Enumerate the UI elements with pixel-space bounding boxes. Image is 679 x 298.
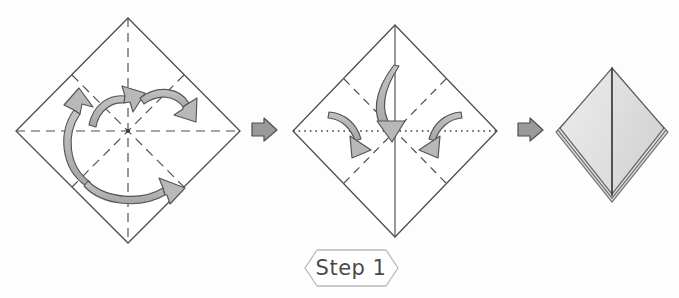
arrow-figure2-to-figure3 xyxy=(518,118,543,141)
center-point-figure-1 xyxy=(126,129,130,133)
paper-layer-front-right xyxy=(612,68,664,194)
origami-diagram-canvas: Step 1 xyxy=(0,0,679,298)
figure-3-finished-preliminary-base xyxy=(556,68,668,202)
figure-2-square-collapsing-to-base xyxy=(293,25,497,237)
arrow-figure1-to-figure2 xyxy=(252,118,277,141)
paper-layer-front-left xyxy=(560,68,612,194)
origami-instruction-sheet: Step 1 xyxy=(0,0,679,298)
step-banner: Step 1 xyxy=(305,250,398,286)
figure-1-square-with-all-creases xyxy=(16,18,240,243)
step-banner-label: Step 1 xyxy=(316,256,387,280)
